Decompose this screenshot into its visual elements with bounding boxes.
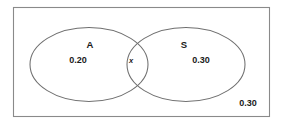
set-a-value: 0.20 [69,55,87,65]
universal-set-rectangle [14,8,270,117]
venn-diagram-figure: A 0.20 S 0.30 x 0.30 [0,0,282,125]
set-a-label: A [87,39,94,50]
set-s-value: 0.30 [192,55,210,65]
venn-diagram-canvas: A 0.20 S 0.30 x 0.30 [0,0,282,125]
set-s-label: S [181,39,187,50]
intersection-value: x [128,56,134,65]
outside-sets-value: 0.30 [239,98,257,108]
